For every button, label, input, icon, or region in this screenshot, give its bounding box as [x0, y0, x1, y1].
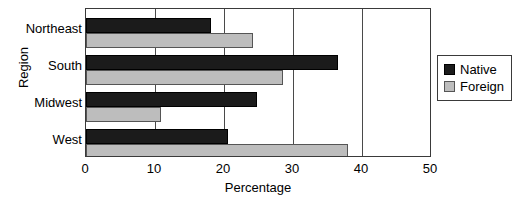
legend-item-native: Native — [444, 61, 504, 78]
x-axis-tick-40: 40 — [341, 161, 381, 176]
gridline-40 — [362, 9, 363, 156]
x-axis-tick-50: 50 — [410, 161, 450, 176]
bar-south-foreign — [86, 70, 283, 85]
y-axis-label-west: West — [4, 133, 82, 147]
gridline-30 — [293, 9, 294, 156]
legend-item-foreign: Foreign — [444, 78, 504, 95]
bar-midwest-foreign — [86, 107, 161, 122]
y-axis-label-northeast: Northeast — [4, 22, 82, 36]
legend-swatch-foreign-icon — [444, 81, 455, 92]
bar-west-foreign — [86, 144, 348, 157]
legend-label-native: Native — [460, 62, 497, 77]
bar-west-native — [86, 129, 228, 144]
x-axis-title: Percentage — [85, 180, 431, 195]
x-axis-tick-0: 0 — [65, 161, 105, 176]
legend-label-foreign: Foreign — [460, 79, 504, 94]
bar-northeast-foreign — [86, 33, 253, 48]
y-axis-label-south: South — [4, 59, 82, 73]
chart-legend: Native Foreign — [437, 55, 512, 101]
x-axis-tick-20: 20 — [203, 161, 243, 176]
y-axis-label-midwest: Midwest — [4, 96, 82, 110]
bar-northeast-native — [86, 18, 211, 33]
x-axis-tick-30: 30 — [272, 161, 312, 176]
bar-midwest-native — [86, 92, 257, 107]
x-axis-tick-10: 10 — [134, 161, 174, 176]
bar-south-native — [86, 55, 338, 70]
plot-area — [85, 8, 431, 157]
legend-swatch-native-icon — [444, 64, 455, 75]
